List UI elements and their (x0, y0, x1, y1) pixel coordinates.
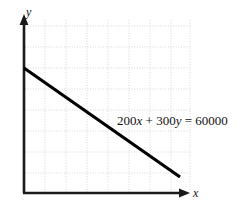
equation-operator: + (142, 113, 156, 128)
coordinate-plane (0, 0, 241, 213)
x-axis-label: x (193, 187, 198, 199)
equation-annotation: 200x + 300y = 60000 (117, 114, 228, 127)
graph-figure: y x 200x + 300y = 60000 (0, 0, 241, 213)
equation-equals-sign: = (181, 113, 195, 128)
equation-coefficient-x: 200 (117, 113, 137, 128)
equation-coefficient-y: 300 (156, 113, 176, 128)
y-axis-label: y (26, 6, 31, 18)
equation-constant: 60000 (195, 113, 228, 128)
x-axis-arrowhead (179, 189, 190, 198)
vertical-grid-lines (45, 20, 190, 192)
